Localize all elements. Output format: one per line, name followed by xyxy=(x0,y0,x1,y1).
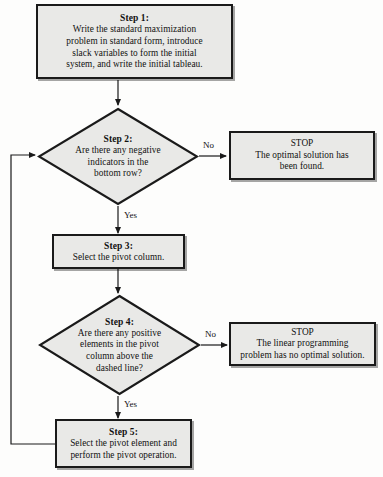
step-1-title: Step 1: xyxy=(120,12,149,24)
edge-label-step4-yes: Yes xyxy=(124,399,137,409)
edge-label-step2-yes: Yes xyxy=(124,210,137,220)
node-step-1: Step 1: Write the standard maximization … xyxy=(36,4,233,79)
node-step-2: Step 2: Are there any negative indicator… xyxy=(37,107,199,206)
node-step-3: Step 3: Select the pivot column. xyxy=(52,234,185,269)
stop-2-title: STOP xyxy=(291,327,314,339)
step-2-text: Step 2: Are there any negative indicator… xyxy=(37,107,199,206)
step-5-title: Step 5: xyxy=(109,426,138,438)
stop-1-title: STOP xyxy=(291,138,314,150)
node-stop-no-optimal-solution: STOP The linear programming problem has … xyxy=(229,322,376,366)
stop-1-body: The optimal solution has been found. xyxy=(251,150,352,173)
step-4-body: Are there any positive elements in the p… xyxy=(74,328,165,374)
node-step-5: Step 5: Select the pivot element and per… xyxy=(55,419,192,468)
node-step-4: Step 4: Are there any positive elements … xyxy=(38,294,201,396)
step-2-body: Are there any negative indicators in the… xyxy=(71,145,165,180)
step-4-text: Step 4: Are there any positive elements … xyxy=(38,294,201,396)
step-3-body: Select the pivot column. xyxy=(69,252,169,264)
stop-2-body: The linear programming problem has no op… xyxy=(236,338,368,361)
node-stop-optimal-found: STOP The optimal solution has been found… xyxy=(229,131,375,180)
edge-label-step2-no: No xyxy=(203,140,214,150)
step-4-title: Step 4: xyxy=(105,316,134,328)
simplex-method-flowchart: Step 1: Write the standard maximization … xyxy=(0,0,383,477)
step-3-title: Step 3: xyxy=(104,240,133,252)
edge-label-step4-no: No xyxy=(205,329,216,339)
step-1-body: Write the standard maximization problem … xyxy=(62,24,206,70)
step-2-title: Step 2: xyxy=(104,133,133,145)
step-5-body: Select the pivot element and perform the… xyxy=(66,438,181,461)
